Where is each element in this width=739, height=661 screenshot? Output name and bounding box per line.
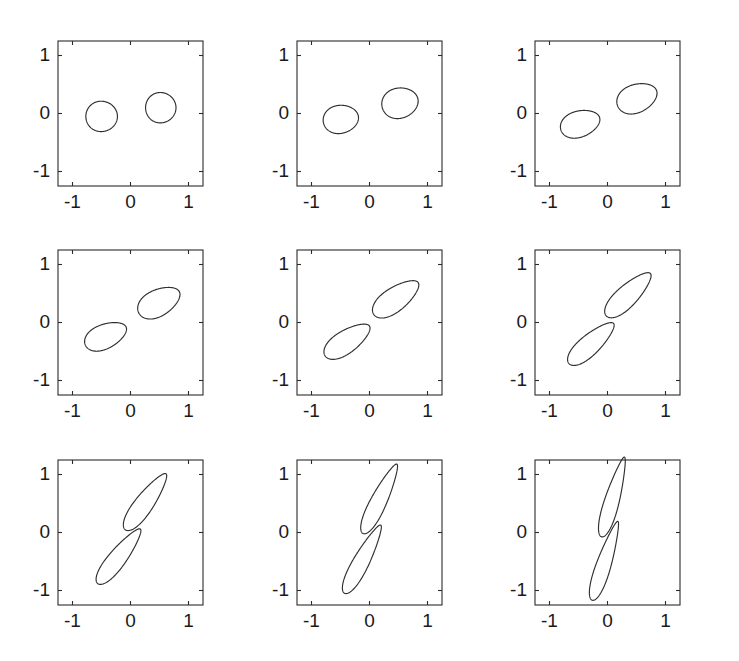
curve-upper-right-lobe xyxy=(382,88,418,119)
plot-panel-3: -101-101 xyxy=(497,22,736,232)
plot-panel-8: -101-101 xyxy=(259,441,498,651)
y-tick-label: 0 xyxy=(278,521,289,542)
x-tick-label: 1 xyxy=(422,610,433,631)
curve-upper-right-lobe xyxy=(605,273,651,318)
y-tick-label: 1 xyxy=(39,44,50,65)
plot-frame xyxy=(297,41,442,186)
y-tick-label: 1 xyxy=(278,44,289,65)
x-tick-label: -1 xyxy=(541,191,558,212)
y-tick-label: -1 xyxy=(510,160,527,181)
plot-panel-4: -101-101 xyxy=(20,231,259,441)
plot-frame xyxy=(535,41,680,186)
y-tick-label: 1 xyxy=(516,44,527,65)
y-tick-label: -1 xyxy=(510,579,527,600)
y-tick-label: 1 xyxy=(39,463,50,484)
plot-frame xyxy=(58,460,203,605)
curve-lower-left-lobe xyxy=(323,105,358,133)
y-tick-label: 0 xyxy=(278,102,289,123)
x-tick-label: -1 xyxy=(64,610,81,631)
y-tick-label: 1 xyxy=(516,253,527,274)
curve-upper-right-lobe xyxy=(598,457,625,537)
x-tick-label: -1 xyxy=(64,191,81,212)
x-tick-label: 0 xyxy=(125,400,136,421)
y-tick-label: 0 xyxy=(39,311,50,332)
x-tick-label: 1 xyxy=(660,191,671,212)
x-tick-label: -1 xyxy=(541,610,558,631)
x-tick-label: -1 xyxy=(303,610,320,631)
x-tick-label: -1 xyxy=(303,191,320,212)
x-tick-label: 0 xyxy=(364,191,375,212)
y-tick-label: -1 xyxy=(272,160,289,181)
y-tick-label: 0 xyxy=(39,102,50,123)
x-tick-label: -1 xyxy=(541,400,558,421)
x-tick-label: 0 xyxy=(364,610,375,631)
y-tick-label: 0 xyxy=(516,311,527,332)
curve-lower-left-lobe xyxy=(96,529,141,585)
x-tick-label: 1 xyxy=(660,400,671,421)
curve-upper-right-lobe xyxy=(372,281,418,318)
curve-lower-left-lobe xyxy=(589,521,618,600)
x-tick-label: 1 xyxy=(183,191,194,212)
plot-frame xyxy=(58,41,203,186)
plot-frame xyxy=(297,460,442,605)
x-tick-label: 0 xyxy=(602,610,613,631)
x-tick-label: 1 xyxy=(183,610,194,631)
curve-lower-left-lobe xyxy=(324,324,370,359)
plot-panel-2: -101-101 xyxy=(259,22,498,232)
curve-lower-left-lobe xyxy=(560,110,600,138)
y-tick-label: -1 xyxy=(33,160,50,181)
y-tick-label: -1 xyxy=(33,579,50,600)
curve-lower-left-lobe xyxy=(342,525,381,594)
x-tick-label: 0 xyxy=(602,191,613,212)
plot-panel-9: -101-101 xyxy=(497,441,736,651)
x-tick-label: 1 xyxy=(422,400,433,421)
plot-frame xyxy=(58,250,203,395)
y-tick-label: 1 xyxy=(39,253,50,274)
curve-upper-right-lobe xyxy=(123,474,166,531)
x-tick-label: 0 xyxy=(125,191,136,212)
x-tick-label: 1 xyxy=(183,400,194,421)
plot-panel-1: -101-101 xyxy=(20,22,259,232)
plot-panel-6: -101-101 xyxy=(497,231,736,441)
curve-upper-right-lobe xyxy=(361,464,398,534)
y-tick-label: -1 xyxy=(272,579,289,600)
y-tick-label: 1 xyxy=(278,253,289,274)
plot-panel-7: -101-101 xyxy=(20,441,259,651)
y-tick-label: -1 xyxy=(510,369,527,390)
y-tick-label: -1 xyxy=(33,369,50,390)
plot-frame xyxy=(297,250,442,395)
plot-panel-5: -101-101 xyxy=(259,231,498,441)
plot-frame xyxy=(535,250,680,395)
y-tick-label: 1 xyxy=(278,463,289,484)
x-tick-label: 1 xyxy=(422,191,433,212)
x-tick-label: 1 xyxy=(660,610,671,631)
y-tick-label: 0 xyxy=(516,102,527,123)
x-tick-label: -1 xyxy=(303,400,320,421)
curve-upper-right-lobe xyxy=(138,287,180,319)
curve-lower-left-lobe xyxy=(86,101,118,131)
curve-upper-right-lobe xyxy=(146,93,176,123)
y-tick-label: -1 xyxy=(272,369,289,390)
curve-upper-right-lobe xyxy=(617,84,657,114)
y-tick-label: 0 xyxy=(278,311,289,332)
y-tick-label: 0 xyxy=(39,521,50,542)
x-tick-label: -1 xyxy=(64,400,81,421)
curve-lower-left-lobe xyxy=(568,323,615,366)
curve-lower-left-lobe xyxy=(85,323,127,352)
x-tick-label: 0 xyxy=(602,400,613,421)
y-tick-label: 1 xyxy=(516,463,527,484)
figure-panel-grid: -101-101-101-101-101-101-101-101-101-101… xyxy=(0,0,739,661)
y-tick-label: 0 xyxy=(516,521,527,542)
x-tick-label: 0 xyxy=(125,610,136,631)
x-tick-label: 0 xyxy=(364,400,375,421)
